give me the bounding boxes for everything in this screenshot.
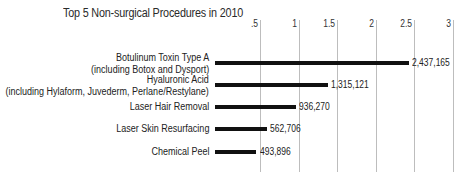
bar	[215, 127, 267, 131]
gridline	[299, 20, 300, 172]
bar	[215, 150, 256, 154]
x-tick-label: 2.5	[387, 18, 413, 29]
bar	[215, 83, 328, 87]
x-tick-label: 1	[272, 18, 298, 29]
gridline	[376, 20, 377, 172]
value-label: 2,437,165	[412, 57, 450, 68]
value-label: 936,270	[299, 101, 330, 112]
category-label: Chemical Peel	[151, 146, 209, 158]
value-label: 493,896	[260, 146, 291, 157]
x-tick-label: .5	[233, 18, 259, 29]
category-label: Botulinum Toxin Type A (including Botox …	[91, 52, 209, 76]
gridline	[453, 20, 454, 172]
category-label: Laser Skin Resurfacing	[116, 123, 209, 135]
category-label: Hyaluronic Acid (including Hylaform, Juv…	[6, 74, 209, 98]
chart-title: Top 5 Non-surgical Procedures in 2010	[63, 6, 243, 20]
value-label: 562,706	[270, 123, 301, 134]
category-label: Laser Hair Removal	[129, 101, 209, 113]
x-tick-label: 2	[349, 18, 375, 29]
x-tick-label: 1.5	[310, 18, 336, 29]
x-tick-label: 3	[426, 18, 452, 29]
value-label: 1,315,121	[331, 79, 369, 90]
bar	[215, 105, 296, 109]
bar	[215, 61, 409, 65]
gridline	[414, 20, 415, 172]
gridline	[337, 20, 338, 172]
